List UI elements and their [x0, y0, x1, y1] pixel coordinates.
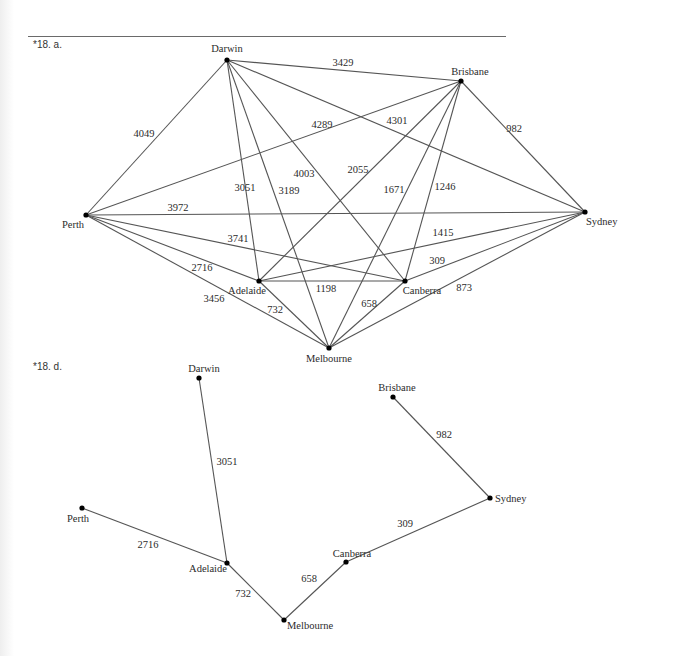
node-canberra [343, 559, 348, 564]
node-brisbane [390, 394, 395, 399]
node-label-melbourne: Melbourne [287, 620, 333, 631]
node-label-perth: Perth [67, 513, 90, 524]
edge-perth-adelaide [82, 508, 227, 563]
edge-weight-perth-adelaide: 2716 [138, 539, 159, 550]
edge-weight-darwin-adelaide: 3051 [217, 456, 238, 467]
node-darwin [196, 375, 201, 380]
edge-weights: 30512716732658309982 [138, 429, 452, 599]
node-label-adelaide: Adelaide [189, 563, 227, 574]
edge-weight-adelaide-melbourne: 732 [235, 588, 251, 599]
node-label-sydney: Sydney [495, 493, 527, 504]
edge-weight-canberra-sydney: 309 [397, 518, 413, 529]
edge-darwin-adelaide [199, 378, 227, 563]
edges [82, 378, 490, 620]
node-label-darwin: Darwin [188, 363, 220, 374]
edge-weight-brisbane-sydney: 982 [436, 429, 452, 440]
node-melbourne [281, 617, 286, 622]
nodes [79, 375, 492, 622]
node-label-canberra: Canberra [333, 548, 372, 559]
node-perth [79, 505, 84, 510]
node-sydney [487, 495, 492, 500]
edge-canberra-melbourne [284, 562, 346, 620]
edge-weight-canberra-melbourne: 658 [301, 573, 317, 584]
node-labels: DarwinBrisbaneSydneyPerthAdelaideCanberr… [67, 363, 527, 631]
node-label-brisbane: Brisbane [378, 382, 416, 393]
spanning-tree-18d: 30512716732658309982 DarwinBrisbaneSydne… [0, 0, 675, 656]
edge-brisbane-sydney [393, 397, 490, 498]
